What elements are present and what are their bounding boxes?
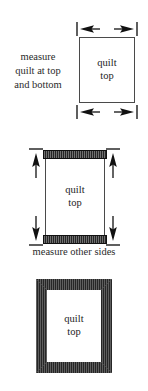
- double-arrow-horizontal-icon: [76, 22, 138, 36]
- double-arrow-vertical-icon: [29, 148, 43, 246]
- quilt-top-label-line-2: top: [47, 325, 101, 338]
- left-height-dimension-arrow: [29, 148, 43, 246]
- figure-1-caption-line-3: and bottom: [4, 78, 72, 92]
- quilt-top-with-top-bottom-borders: quilt top: [43, 150, 107, 244]
- quilt-top-label: quilt top: [80, 56, 134, 82]
- quilt-top-box: quilt top: [79, 37, 135, 103]
- right-height-dimension-arrow: [106, 148, 120, 246]
- double-arrow-horizontal-icon: [76, 105, 138, 119]
- quilt-top-box: quilt top: [45, 159, 105, 235]
- quilt-top-label-line-2: top: [80, 69, 134, 82]
- figure-2-caption: measure other sides: [0, 245, 148, 259]
- quilt-top-label: quilt top: [47, 312, 101, 338]
- figure-1-caption-line-1: measure: [4, 50, 72, 64]
- quilt-top-label-line-1: quilt: [80, 56, 134, 69]
- quilt-top-label: quilt top: [46, 183, 104, 209]
- figure-1-caption-line-2: quilt at top: [4, 64, 72, 78]
- quilt-border-frame: quilt top: [36, 279, 112, 373]
- top-width-dimension-arrow: [76, 22, 138, 36]
- quilt-top-box: quilt top: [47, 290, 101, 362]
- diagram-canvas: measure quilt at top and bottom quilt to…: [0, 0, 148, 391]
- figure-measure-top-and-bottom: measure quilt at top and bottom quilt to…: [0, 0, 148, 128]
- quilt-top-label-line-1: quilt: [47, 312, 101, 325]
- figure-measure-other-sides: quilt top measure other sides: [0, 128, 148, 258]
- figure-1-caption: measure quilt at top and bottom: [4, 50, 72, 92]
- quilt-top-label-line-2: top: [46, 196, 104, 209]
- bottom-width-dimension-arrow: [76, 105, 138, 119]
- top-border-strip: [43, 150, 107, 159]
- double-arrow-vertical-icon: [106, 148, 120, 246]
- figure-all-borders-attached: quilt top: [0, 258, 148, 391]
- quilt-top-label-line-1: quilt: [46, 183, 104, 196]
- bottom-border-strip: [43, 235, 107, 244]
